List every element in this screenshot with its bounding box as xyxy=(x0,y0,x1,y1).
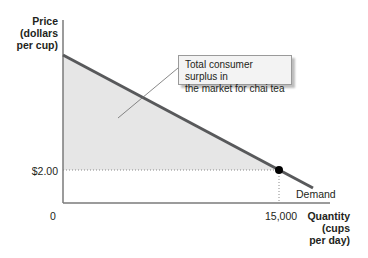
y-tick-label: $2.00 xyxy=(20,165,58,177)
x-tick-label: 15,000 xyxy=(265,210,297,222)
y-axis-label-line1: Price xyxy=(6,15,58,27)
x-axis-label-line1: Quantity xyxy=(300,210,350,222)
equilibrium-point xyxy=(275,166,283,174)
demand-label: Demand xyxy=(296,188,336,200)
y-axis-label-line3: per cup) xyxy=(6,39,58,51)
y-axis-label: Price (dollars per cup) xyxy=(6,15,58,51)
origin-label: 0 xyxy=(50,210,56,222)
y-axis-label-line2: (dollars xyxy=(6,27,58,39)
callout-line1: Total consumer surplus in xyxy=(185,59,285,83)
x-axis-label: Quantity (cups per day) xyxy=(300,210,350,246)
consumer-surplus-callout: Total consumer surplus in the market for… xyxy=(178,55,292,85)
x-axis-label-line3: per day) xyxy=(300,234,350,246)
callout-line2: the market for chai tea xyxy=(185,83,285,95)
x-axis-label-line2: (cups xyxy=(300,222,350,234)
